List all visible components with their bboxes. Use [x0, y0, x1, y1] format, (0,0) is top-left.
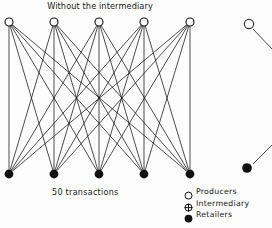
retailer-node [5, 170, 14, 179]
producer-node [186, 18, 194, 26]
fragment-edge [253, 145, 272, 164]
figure-title: Without the intermediary [0, 1, 200, 11]
retailer-node [50, 170, 59, 179]
legend-item-producers: Producers [183, 186, 272, 198]
filled-circle-icon [183, 209, 194, 220]
transactions-caption: 50 transactions [52, 188, 119, 197]
fragment-retailer-node [242, 163, 252, 173]
crossed-circle-icon [183, 198, 194, 209]
legend-item-intermediary: Intermediary [183, 198, 272, 210]
edge-layer [9, 25, 190, 172]
open-circle-icon [183, 186, 194, 197]
network-diagram-figure: Without the intermediary 50 transactions… [0, 0, 272, 228]
producer-node [140, 18, 148, 26]
fragment-producer-node [244, 19, 253, 28]
producer-node [95, 18, 103, 26]
retailer-node [95, 170, 104, 179]
legend-label-producers: Producers [194, 187, 237, 196]
retailer-node [186, 170, 195, 179]
node-layer [5, 18, 254, 178]
legend: Producers Intermediary Retailers [183, 186, 272, 221]
producer-node [50, 18, 58, 26]
legend-label-retailers: Retailers [194, 210, 232, 219]
legend-label-intermediary: Intermediary [194, 199, 249, 208]
adjacent-figure-fragment-layer [253, 29, 272, 164]
retailer-node [140, 170, 149, 179]
fragment-edge [253, 29, 272, 49]
producer-node [5, 18, 13, 26]
legend-item-retailers: Retailers [183, 209, 272, 221]
